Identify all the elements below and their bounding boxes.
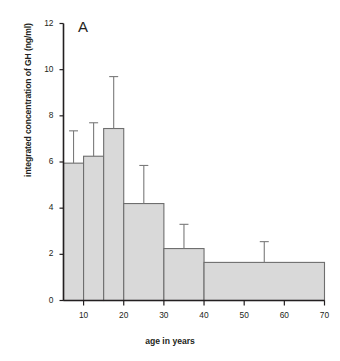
- y-tick-label-4: 4: [34, 202, 54, 212]
- figure-panel-a: A integrated concentration of GH (ng/ml)…: [0, 0, 340, 361]
- error-bar-20-30: [139, 165, 148, 203]
- y-tick-label-8: 8: [34, 110, 54, 120]
- bar-40-70: [204, 262, 324, 300]
- bar-5-10: [64, 163, 84, 300]
- bar-chart-plot: [0, 0, 340, 361]
- bars-layer: [64, 129, 325, 301]
- bar-20-30: [124, 204, 164, 301]
- bar-15-20: [104, 129, 124, 301]
- x-tick-label-30: 30: [152, 310, 176, 320]
- x-tick-label-70: 70: [313, 310, 337, 320]
- y-tick-label-0: 0: [34, 295, 54, 305]
- x-tick-label-20: 20: [112, 310, 136, 320]
- y-tick-label-2: 2: [34, 248, 54, 258]
- error-bar-5-10: [69, 131, 78, 163]
- x-tick-label-60: 60: [272, 310, 296, 320]
- y-tick-label-12: 12: [34, 18, 54, 28]
- bar-10-15: [84, 156, 104, 300]
- error-bar-15-20: [109, 77, 118, 129]
- bar-30-40: [164, 249, 204, 301]
- x-tick-label-10: 10: [72, 310, 96, 320]
- y-tick-label-6: 6: [34, 156, 54, 166]
- error-bar-40-70: [260, 242, 269, 263]
- y-tick-label-10: 10: [34, 64, 54, 74]
- x-tick-label-50: 50: [232, 310, 256, 320]
- error-bar-10-15: [89, 123, 98, 156]
- x-tick-label-40: 40: [192, 310, 216, 320]
- error-bar-30-40: [179, 224, 188, 248]
